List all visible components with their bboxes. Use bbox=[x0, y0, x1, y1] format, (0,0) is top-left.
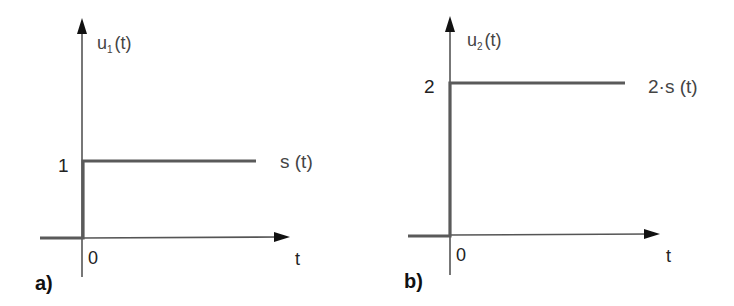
level-label-b: 2 bbox=[424, 76, 435, 97]
x-axis-a bbox=[82, 237, 280, 238]
step-curve-b bbox=[408, 83, 625, 236]
x-axis-label-a: t bbox=[295, 249, 300, 269]
step-curve-a bbox=[40, 161, 256, 238]
origin-label-a: 0 bbox=[88, 248, 98, 268]
x-axis-b bbox=[450, 234, 650, 235]
panel-a: u1(t) 1 s (t) 0 t a) bbox=[35, 18, 313, 294]
panel-tag-b: b) bbox=[404, 270, 423, 292]
x-axis-arrow-icon bbox=[644, 229, 660, 239]
curve-label-a: s (t) bbox=[280, 151, 313, 172]
x-axis-label-b: t bbox=[666, 246, 671, 266]
panel-b: u2(t) 2 2·s (t) 0 t b) bbox=[404, 16, 698, 292]
panel-tag-a: a) bbox=[35, 272, 53, 294]
y-axis-label-b: u2(t) bbox=[467, 30, 502, 52]
origin-label-b: 0 bbox=[456, 245, 466, 265]
y-axis-arrow-icon bbox=[77, 18, 87, 34]
step-function-diagram: u1(t) 1 s (t) 0 t a) u2(t) 2 2·s (t) 0 t… bbox=[0, 0, 734, 306]
curve-label-b: 2·s (t) bbox=[648, 76, 698, 97]
y-axis-label-a: u1(t) bbox=[97, 33, 132, 55]
x-axis-arrow-icon bbox=[274, 232, 290, 242]
y-axis-arrow-icon bbox=[445, 16, 455, 32]
level-label-a: 1 bbox=[58, 155, 69, 176]
